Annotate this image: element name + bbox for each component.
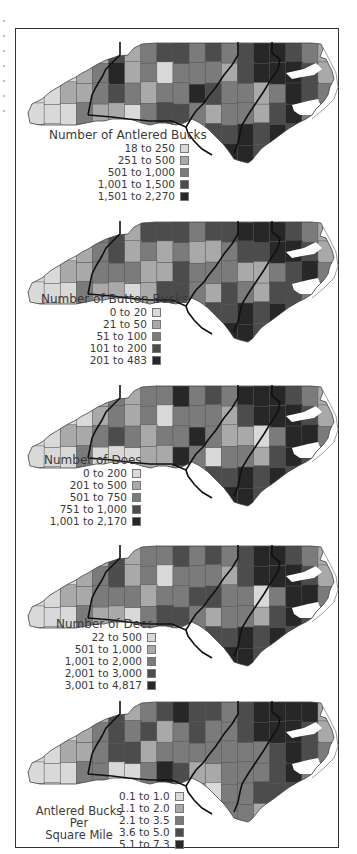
legend-row: 1,001 to 2,000 (56, 655, 156, 667)
legend-row: 1,001 to 1,500 (49, 178, 189, 190)
legend-row: 21 to 50 (41, 318, 161, 330)
legend: Antlered Bucks Per Square Mile 0.1 to 1.… (16, 677, 340, 847)
legend-title: Antlered Bucks Per Square Mile (34, 805, 124, 841)
figure-frame: Number of Antlered Bucks 18 to 250 251 t… (15, 28, 339, 848)
legend-swatch (132, 505, 141, 514)
legend-row: 3.6 to 5.0 (119, 826, 184, 838)
legend-row: 1.1 to 2.0 (119, 802, 184, 814)
legend-swatch (132, 469, 141, 478)
panel-antlered-bucks: Number of Antlered Bucks 18 to 250 251 t… (16, 29, 340, 194)
legend-swatch (132, 481, 141, 490)
legend-swatch (175, 792, 184, 801)
legend-swatch (147, 633, 156, 642)
legend-row: 18 to 250 (49, 142, 189, 154)
margin-marks (2, 20, 8, 125)
legend-row: 22 to 500 (56, 631, 156, 643)
legend-swatch (175, 828, 184, 837)
legend-title: Number of Deer (56, 618, 156, 630)
legend: Number of Does 0 to 200 201 to 500 501 t… (44, 454, 141, 527)
legend-swatch (180, 156, 189, 165)
panel-does: Number of Does 0 to 200 201 to 500 501 t… (16, 362, 340, 527)
legend-row: 501 to 1,000 (56, 643, 156, 655)
legend-swatch (152, 308, 161, 317)
legend: Number of Antlered Bucks 18 to 250 251 t… (49, 129, 189, 202)
legend-row: 0.1 to 1.0 (119, 790, 184, 802)
legend-row: 101 to 200 (41, 342, 161, 354)
legend-row: 51 to 100 (41, 330, 161, 342)
legend-row: 201 to 500 (44, 479, 141, 491)
legend-row: 751 to 1,000 (44, 503, 141, 515)
panel-deer: Number of Deer 22 to 500 501 to 1,000 1,… (16, 522, 340, 687)
legend-rows: 0.1 to 1.0 1.1 to 2.0 2.1 to 3.5 3.6 to … (119, 790, 184, 850)
legend-row: 501 to 1,000 (49, 166, 189, 178)
legend-swatch (180, 180, 189, 189)
legend-row: 251 to 500 (49, 154, 189, 166)
legend-title: Number of Antlered Bucks (49, 129, 189, 141)
legend-row: 0 to 20 (41, 306, 161, 318)
legend-swatch (175, 816, 184, 825)
legend-row: 0 to 200 (44, 467, 141, 479)
legend-row: 2.1 to 3.5 (119, 814, 184, 826)
panel-antlered-bucks-per-sq-mile: Antlered Bucks Per Square Mile 0.1 to 1.… (16, 677, 340, 847)
legend-swatch (175, 804, 184, 813)
legend-swatch (147, 657, 156, 666)
legend-title: Number of Button Bucks (41, 293, 161, 305)
legend-swatch (152, 332, 161, 341)
legend-swatch (175, 840, 184, 849)
legend-swatch (152, 320, 161, 329)
legend-swatch (180, 168, 189, 177)
legend: Number of Button Bucks 0 to 20 21 to 50 … (41, 293, 161, 366)
legend-swatch (147, 645, 156, 654)
legend-row: 5.1 to 7.3 (119, 838, 184, 850)
legend-row: 501 to 750 (44, 491, 141, 503)
legend-swatch (180, 144, 189, 153)
legend-swatch (132, 493, 141, 502)
legend-swatch (152, 344, 161, 353)
legend-title: Number of Does (44, 454, 141, 466)
panel-button-bucks: Number of Button Bucks 0 to 20 21 to 50 … (16, 194, 340, 359)
